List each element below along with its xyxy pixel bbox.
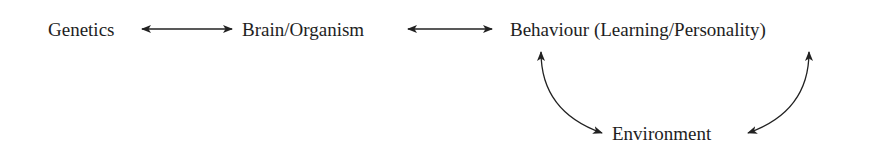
arrow-behaviour-environment-left: [541, 52, 602, 133]
node-environment: Environment: [612, 124, 711, 143]
arrow-behaviour-environment-right: [748, 52, 809, 133]
node-behaviour: Behaviour (Learning/Personality): [510, 20, 766, 39]
node-brain-organism: Brain/Organism: [242, 20, 364, 39]
node-genetics: Genetics: [48, 20, 114, 39]
